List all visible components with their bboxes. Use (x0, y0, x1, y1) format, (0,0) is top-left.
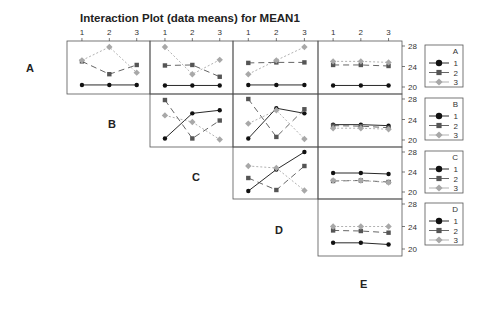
factor-label-B: B (108, 118, 116, 130)
panel-B-E (318, 94, 402, 147)
factor-label-E: E (360, 278, 367, 290)
panel-grid (67, 41, 402, 256)
y-tick-label: 20 (408, 188, 417, 197)
factor-label-D: D (275, 224, 283, 236)
x-tick-label: 3 (302, 28, 307, 37)
legend-B: B123 (425, 98, 463, 140)
factor-labels: ABCDE (26, 62, 367, 290)
x-tick-label: 2 (274, 28, 279, 37)
panel-A-B (67, 41, 150, 94)
x-tick-label: 1 (331, 28, 336, 37)
y-tick-label: 20 (408, 83, 417, 92)
y-tick-label: 20 (408, 245, 417, 254)
x-tick-label: 3 (217, 28, 222, 37)
panel-B-C (150, 94, 233, 147)
y-tick-label: 28 (408, 42, 417, 51)
factor-label-C: C (192, 171, 200, 183)
y-tick-label: 28 (408, 95, 417, 104)
svg-text:A: A (453, 47, 459, 56)
x-tick-label: 2 (190, 28, 195, 37)
svg-text:1: 1 (454, 112, 459, 121)
svg-text:2: 2 (454, 227, 459, 236)
factor-label-A: A (26, 62, 34, 74)
panel-A-D (233, 41, 318, 94)
svg-text:1: 1 (454, 217, 459, 226)
svg-text:D: D (452, 205, 458, 214)
interaction-plot: Interaction Plot (data means) for MEAN1 … (0, 0, 485, 311)
x-tick-label: 3 (134, 28, 139, 37)
x-tick-label: 1 (163, 28, 168, 37)
chart-title: Interaction Plot (data means) for MEAN1 (80, 12, 300, 24)
y-tick-label: 24 (408, 168, 417, 177)
y-tick-label: 24 (408, 63, 417, 72)
svg-text:1: 1 (454, 59, 459, 68)
svg-text:3: 3 (454, 184, 459, 193)
x-tick-label: 1 (246, 28, 251, 37)
panel-D-E (318, 199, 402, 256)
y-tick-label: 24 (408, 116, 417, 125)
legends: A123B123C123D123 (425, 45, 463, 245)
y-tick-label: 20 (408, 136, 417, 145)
x-tick-label: 2 (359, 28, 364, 37)
panel-C-D (233, 147, 318, 199)
svg-text:2: 2 (454, 122, 459, 131)
panel-A-E (318, 41, 402, 94)
panel-A-C (150, 41, 233, 94)
svg-text:2: 2 (454, 175, 459, 184)
legend-C: C123 (425, 151, 463, 193)
y-tick-label: 24 (408, 223, 417, 232)
svg-text:C: C (452, 153, 458, 162)
panel-C-E (318, 147, 402, 199)
svg-text:3: 3 (454, 236, 459, 245)
y-tick-label: 28 (408, 200, 417, 209)
svg-text:3: 3 (454, 131, 459, 140)
legend-D: D123 (425, 203, 463, 245)
legend-A: A123 (425, 45, 463, 87)
x-tick-label: 1 (80, 28, 85, 37)
svg-text:1: 1 (454, 165, 459, 174)
x-tick-label: 3 (386, 28, 391, 37)
svg-text:B: B (453, 100, 458, 109)
svg-text:2: 2 (454, 69, 459, 78)
y-tick-label: 28 (408, 148, 417, 157)
panel-B-D (233, 94, 318, 147)
svg-text:3: 3 (454, 78, 459, 87)
x-tick-label: 2 (107, 28, 112, 37)
